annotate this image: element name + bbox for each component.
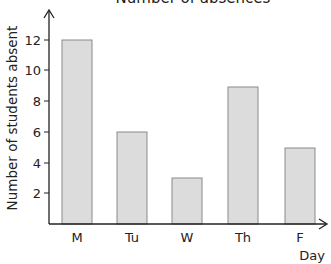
- bar-w: [172, 178, 202, 224]
- xtick-th: Th: [234, 230, 251, 245]
- ytick-2: 2: [33, 186, 41, 201]
- bar-chart: Number of absences 12 10 8 6 4 2 Number …: [0, 0, 331, 264]
- xtick-tu: Tu: [124, 230, 139, 245]
- y-axis: 12 10 8 6 4 2 Number of students absent: [4, 10, 54, 224]
- bar-f: [285, 148, 315, 224]
- x-axis-label: Day: [299, 248, 325, 263]
- ytick-10: 10: [24, 63, 41, 78]
- bar-th: [228, 87, 258, 224]
- ytick-8: 8: [33, 94, 41, 109]
- bar-m: [62, 40, 92, 224]
- ytick-4: 4: [33, 156, 41, 171]
- chart-title: Number of absences: [116, 0, 271, 7]
- ytick-6: 6: [33, 125, 41, 140]
- bar-tu: [117, 132, 147, 224]
- ytick-12: 12: [24, 33, 41, 48]
- bars: [62, 40, 315, 224]
- xtick-m: M: [71, 230, 82, 245]
- xtick-w: W: [181, 230, 194, 245]
- xtick-f: F: [296, 230, 303, 245]
- x-axis: M Tu W Th F Day: [49, 219, 327, 263]
- y-axis-label: Number of students absent: [4, 26, 20, 211]
